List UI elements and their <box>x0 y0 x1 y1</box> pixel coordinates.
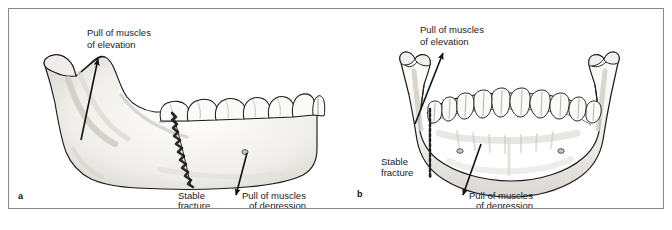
teeth-arch-frontal <box>427 88 601 125</box>
label-depression-line2: of depression <box>249 200 306 208</box>
tooth <box>292 94 314 117</box>
panel-letter-b: b <box>357 189 363 199</box>
label-fracture-line1: Stable <box>381 156 408 167</box>
right-condyle <box>604 52 619 64</box>
mental-foramen-left <box>457 149 463 154</box>
figure-page: Pull of muscles of elevation Stable frac… <box>0 0 672 230</box>
tooth <box>187 99 218 121</box>
label-elevation-line2: of elevation <box>87 39 136 50</box>
panel-a-illustration: Pull of muscles of elevation Stable frac… <box>9 9 339 208</box>
tooth <box>510 88 530 117</box>
mental-foramen-right <box>558 149 564 154</box>
caption-strip <box>8 216 468 228</box>
tooth <box>569 97 586 121</box>
tooth <box>313 96 325 116</box>
label-fracture-line2: fracture <box>178 200 210 208</box>
label-elevation-line1: Pull of muscles <box>87 27 151 38</box>
mandible-lateral <box>44 55 325 190</box>
tooth <box>268 97 294 118</box>
label-elevation-line1: Pull of muscles <box>420 24 484 35</box>
tooth <box>215 99 245 120</box>
panel-letter-a: a <box>18 191 23 201</box>
panel-b: Pull of muscles of elevation Stable frac… <box>339 9 665 208</box>
label-depression-line2: of depression <box>476 200 533 208</box>
mandible-frontal <box>400 52 619 197</box>
label-elevation-line2: of elevation <box>420 36 469 47</box>
tooth <box>243 98 270 119</box>
label-fracture-line2: fracture <box>381 167 413 178</box>
tooth <box>550 93 569 119</box>
tooth <box>530 90 550 118</box>
panel-a: Pull of muscles of elevation Stable frac… <box>9 9 339 208</box>
panel-b-illustration: Pull of muscles of elevation Stable frac… <box>339 9 665 208</box>
figure-frame: Pull of muscles of elevation Stable frac… <box>8 8 664 209</box>
